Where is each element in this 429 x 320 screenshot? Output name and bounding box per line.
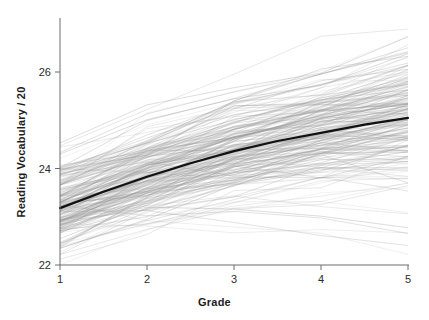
x-tick-label-1: 1: [57, 273, 63, 285]
reading-vocabulary-chart: 12345222426 Reading Vocabulary / 20 Grad…: [0, 0, 429, 320]
y-tick-label-26: 26: [39, 66, 51, 78]
y-tick-label-22: 22: [39, 259, 51, 271]
plot-area: 12345222426: [0, 0, 429, 320]
x-axis-title: Grade: [0, 296, 429, 308]
subject-trajectory: [60, 206, 408, 234]
x-tick-label-5: 5: [405, 273, 411, 285]
x-tick-label-2: 2: [144, 273, 150, 285]
x-tick-label-4: 4: [318, 273, 324, 285]
spaghetti-lines-layer: [60, 29, 408, 265]
x-tick-label-3: 3: [231, 273, 237, 285]
y-axis-title: Reading Vocabulary / 20: [15, 47, 27, 257]
y-tick-label-24: 24: [39, 163, 51, 175]
